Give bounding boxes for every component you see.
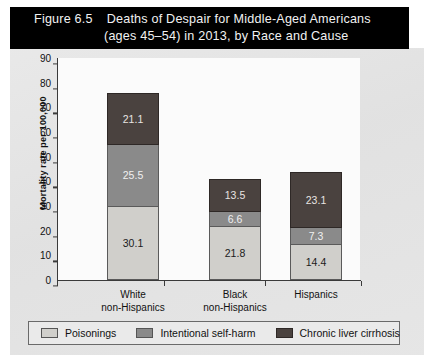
bar-segment-chronic-liver-cirrhosis[interactable]: 21.1 [107, 93, 159, 145]
x-axis-category-label: Hispanics [256, 288, 376, 301]
chart-legend: PoisoningsIntentional self-harmChronic l… [28, 321, 400, 345]
legend-item-chronic-liver-cirrhosis[interactable]: Chronic liver cirrhosis [276, 327, 400, 339]
bar-segment-intentional-self-harm[interactable]: 25.5 [107, 144, 159, 207]
y-axis-tick-label: 40 [40, 176, 57, 187]
legend-label: Poisonings [65, 327, 116, 339]
bar-black-non-hispanics[interactable]: 21.86.613.5 [209, 180, 261, 280]
y-axis-tick-label: 80 [40, 77, 57, 88]
bar-segment-value: 30.1 [123, 238, 143, 249]
bar-segment-value: 6.6 [228, 214, 243, 225]
x-axis-tick-mark [57, 281, 58, 286]
bar-segment-value: 13.5 [225, 190, 245, 201]
bar-hispanics[interactable]: 14.47.323.1 [290, 173, 342, 280]
legend-swatch-icon [136, 328, 153, 338]
x-axis-tick-mark [265, 281, 266, 286]
legend-swatch-icon [276, 328, 293, 338]
bar-segment-intentional-self-harm[interactable]: 7.3 [290, 227, 342, 245]
bar-segment-poisonings[interactable]: 21.8 [209, 226, 261, 280]
legend-swatch-icon [41, 328, 58, 338]
bar-segment-value: 25.5 [123, 170, 143, 181]
x-axis-tick-mark [361, 281, 362, 286]
bar-segment-chronic-liver-cirrhosis[interactable]: 13.5 [209, 179, 261, 212]
y-axis-tick-label: 60 [40, 127, 57, 138]
figure-title-text-1: Deaths of Despair for Middle-Aged Americ… [107, 12, 371, 26]
bar-segment-intentional-self-harm[interactable]: 6.6 [209, 211, 261, 227]
legend-label: Chronic liver cirrhosis [300, 327, 400, 339]
bar-segment-value: 21.8 [225, 248, 245, 259]
bars-layer: 30.125.521.121.86.613.514.47.323.1 [57, 58, 360, 280]
bar-segment-chronic-liver-cirrhosis[interactable]: 23.1 [290, 172, 342, 229]
y-axis-tick-label: 10 [40, 250, 57, 261]
y-axis-tick-label: 20 [40, 225, 57, 236]
bar-segment-value: 14.4 [306, 257, 326, 268]
y-axis-tick-label: 70 [40, 102, 57, 113]
x-axis-category-line: non-Hispanics [175, 301, 295, 314]
x-axis-tick-mark [164, 281, 165, 286]
bar-segment-value: 7.3 [309, 231, 324, 242]
legend-item-poisonings[interactable]: Poisonings [41, 327, 116, 339]
figure-title-line-1: Figure 6.5Deaths of Despair for Middle-A… [34, 11, 401, 28]
chart-plot-wrapper: Mortality rate per 100,000 0102030405060… [12, 52, 412, 292]
bar-segment-value: 23.1 [306, 195, 326, 206]
bar-segment-poisonings[interactable]: 30.1 [107, 206, 159, 280]
figure-root: Figure 6.5Deaths of Despair for Middle-A… [0, 0, 424, 355]
x-axis-category-line: Hispanics [256, 288, 376, 301]
legend-label: Intentional self-harm [160, 327, 255, 339]
x-axis-line [57, 280, 361, 281]
y-axis-tick-label: 50 [40, 151, 57, 162]
y-axis-tick-label: 30 [40, 201, 57, 212]
bar-segment-value: 21.1 [123, 114, 143, 125]
figure-title-line-2: (ages 45–54) in 2013, by Race and Cause [34, 28, 401, 45]
figure-title-banner: Figure 6.5Deaths of Despair for Middle-A… [10, 7, 409, 49]
bar-white-non-hispanics[interactable]: 30.125.521.1 [107, 94, 159, 280]
y-axis-tick-label: 90 [40, 53, 57, 64]
bar-segment-poisonings[interactable]: 14.4 [290, 244, 342, 280]
figure-number: Figure 6.5 [34, 12, 93, 26]
legend-item-intentional-self-harm[interactable]: Intentional self-harm [136, 327, 255, 339]
y-axis-tick-label: 0 [45, 275, 57, 286]
